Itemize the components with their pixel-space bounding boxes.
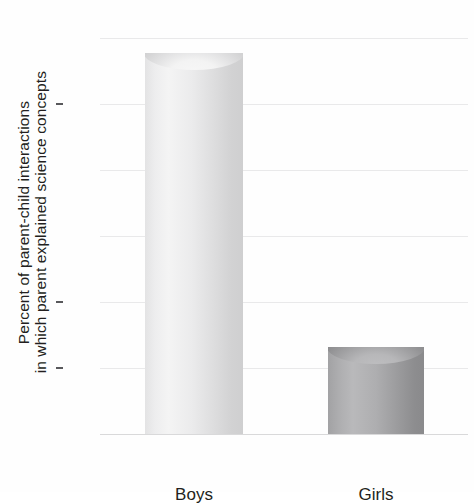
gridline-30 bbox=[100, 38, 468, 39]
y-axis-title-line-2: in which parent explained science concep… bbox=[33, 71, 49, 373]
x-tick-label-boys: Boys bbox=[175, 486, 213, 503]
gridline-0-baseline bbox=[100, 434, 468, 435]
bar-boys[interactable] bbox=[145, 53, 243, 434]
y-axis-title: Percent of parent-child interactions in … bbox=[0, 0, 62, 445]
y-tick-mark-10 bbox=[56, 301, 63, 303]
plot-area: 30 25 20 15 10 5 0 bbox=[100, 38, 468, 434]
bar-girls[interactable] bbox=[328, 347, 424, 434]
x-tick-label-girls: Girls bbox=[359, 486, 394, 503]
bar-boys-body bbox=[145, 53, 243, 434]
y-axis-title-line-1: Percent of parent-child interactions bbox=[16, 101, 32, 344]
y-tick-mark-25 bbox=[56, 103, 63, 105]
y-tick-mark-5 bbox=[56, 367, 63, 369]
